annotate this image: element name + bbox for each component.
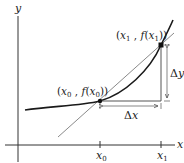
x1-tick-label: x1	[157, 149, 168, 163]
secant-diagram: y x x0 x1 Δx Δy (x0 , f(x0)) (x1 , f(x1)…	[0, 0, 184, 163]
y-axis-label: y	[14, 2, 22, 15]
point-p0	[98, 99, 102, 103]
x-axis-label: x	[177, 138, 184, 151]
delta-y-label: Δy	[170, 67, 184, 80]
point-p0-label: (x0 , f(x0))	[57, 85, 108, 99]
x0-tick-label: x0	[96, 149, 107, 163]
point-p1-label: (x1 , f(x1))	[116, 29, 167, 43]
point-p1	[159, 43, 164, 48]
delta-x-label: Δx	[124, 109, 139, 122]
